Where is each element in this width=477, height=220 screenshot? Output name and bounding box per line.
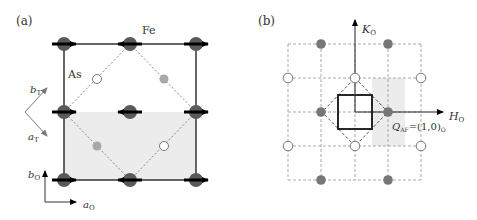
fe-atom xyxy=(184,37,208,51)
as-atom-filled xyxy=(93,142,102,151)
filled-bragg-point xyxy=(316,39,326,49)
filled-bragg-point xyxy=(316,107,326,117)
filled-bragg-point xyxy=(383,107,393,117)
panel-b-label: (b) xyxy=(258,14,275,28)
fe-atom xyxy=(52,37,76,51)
panel-b: (b) KO HO QAF=(1,0)O xyxy=(258,14,465,185)
h-axis-label: H xyxy=(448,110,459,123)
svg-text:KO: KO xyxy=(361,23,376,37)
panel-a-label: (a) xyxy=(16,14,33,28)
filled-bragg-point xyxy=(316,175,326,185)
tetragonal-axes: bT aT xyxy=(25,84,47,144)
open-bragg-point xyxy=(283,73,293,83)
open-bragg-point xyxy=(350,141,360,151)
fe-atom xyxy=(118,37,142,51)
diagram-canvas: (a) Fe As bT aT bO aO xyxy=(0,0,477,220)
as-label: As xyxy=(67,68,82,81)
fe-label: Fe xyxy=(142,24,156,37)
q-af-label: Q xyxy=(392,121,400,132)
svg-text:aT: aT xyxy=(28,131,39,144)
as-atom-open xyxy=(93,75,102,84)
panel-a: (a) Fe As bT aT bO aO xyxy=(16,14,208,212)
svg-text:bO: bO xyxy=(28,169,40,182)
open-bragg-point xyxy=(416,141,426,151)
svg-text:aO: aO xyxy=(83,199,95,212)
shaded-unit-cell xyxy=(64,112,196,180)
open-bragg-point xyxy=(350,73,360,83)
as-atom-open xyxy=(160,142,169,151)
q-af-value: =(1,0) xyxy=(409,121,441,132)
svg-text:bT: bT xyxy=(30,84,41,97)
as-atom-filled xyxy=(160,75,169,84)
open-bragg-point xyxy=(283,141,293,151)
filled-bragg-point xyxy=(383,175,393,185)
svg-text:QAF=(1,0)O: QAF=(1,0)O xyxy=(392,121,446,133)
filled-bragg-point xyxy=(383,39,393,49)
open-bragg-point xyxy=(416,73,426,83)
svg-text:HO: HO xyxy=(448,110,465,124)
